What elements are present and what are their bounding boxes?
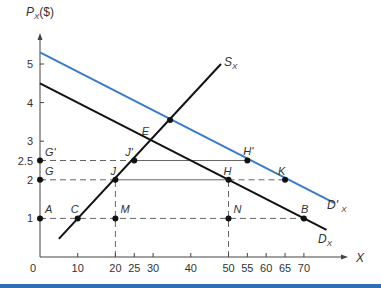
supply-curve-label: SX xyxy=(224,55,238,71)
point-intersection xyxy=(167,117,173,123)
x-tick-label: 25 xyxy=(128,262,140,274)
point-label: J xyxy=(109,165,116,177)
point-gprime xyxy=(37,158,43,164)
point-b xyxy=(301,215,307,221)
x-axis-label: X xyxy=(355,251,365,265)
y-axis-label: PX($) xyxy=(26,5,54,21)
point-label: K xyxy=(278,165,286,177)
supply-demand-diagram: 102025304050556065700122.5345PX($)X DXD'… xyxy=(0,0,381,288)
bottom-bar xyxy=(0,284,381,288)
y-tick-label: 3 xyxy=(27,135,33,147)
new-demand-curve-label: D' X xyxy=(327,198,347,214)
point-label: J' xyxy=(124,146,134,158)
y-tick-label: 2.5 xyxy=(18,155,33,167)
point-n xyxy=(226,215,232,221)
point-h xyxy=(226,177,232,183)
point-label: B xyxy=(301,203,308,215)
x-tick-label: 50 xyxy=(222,262,234,274)
point-label: G xyxy=(45,165,54,177)
point-m xyxy=(112,215,118,221)
x-tick-label: 30 xyxy=(147,262,159,274)
new-demand-curve xyxy=(40,52,334,203)
point-label: E xyxy=(142,125,150,137)
x-tick-label: 60 xyxy=(260,262,272,274)
x-tick-label: 20 xyxy=(109,262,121,274)
x-tick-label: 70 xyxy=(298,262,310,274)
point-label: H xyxy=(224,165,232,177)
y-tick-label: 5 xyxy=(27,58,33,70)
x-tick-label: 55 xyxy=(241,262,253,274)
point-label: M xyxy=(120,203,130,215)
y-axis-arrow-icon xyxy=(38,33,43,40)
demand-curve-label: DX xyxy=(318,232,333,248)
point-k xyxy=(282,177,288,183)
origin-label: 0 xyxy=(30,262,36,274)
x-tick-label: 65 xyxy=(279,262,291,274)
point-g xyxy=(37,177,43,183)
y-tick-label: 4 xyxy=(27,97,33,109)
point-label: H' xyxy=(243,145,254,157)
x-tick-label: 40 xyxy=(185,262,197,274)
y-tick-label: 1 xyxy=(27,212,33,224)
point-jprime xyxy=(131,158,137,164)
x-tick-label: 10 xyxy=(72,262,84,274)
y-tick-label: 2 xyxy=(27,174,33,186)
point-label: A xyxy=(44,203,52,215)
point-label: C xyxy=(71,203,79,215)
point-hprime xyxy=(244,158,250,164)
supply-curve xyxy=(59,64,221,239)
point-label: N xyxy=(234,203,242,215)
point-c xyxy=(75,215,81,221)
x-axis-arrow-icon xyxy=(341,255,348,260)
point-label: G' xyxy=(45,146,57,158)
point-j xyxy=(112,177,118,183)
point-a xyxy=(37,215,43,221)
